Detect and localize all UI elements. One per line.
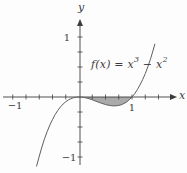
y-tick-label-neg1: −1 — [62, 153, 77, 163]
y-axis-arrowhead — [77, 19, 83, 26]
y-tick-label-1: 1 — [64, 33, 70, 43]
x-axis-arrowhead — [170, 94, 177, 100]
equation-mid: − x — [139, 58, 162, 71]
x-axis-label: x — [179, 91, 185, 101]
plot-canvas — [0, 0, 187, 173]
function-equation-label: f(x) = x3 − x2 — [91, 57, 168, 71]
x-tick-label-1: 1 — [129, 103, 135, 113]
x-tick-label-neg1: −1 — [8, 101, 23, 111]
equation-exponent-2: 2 — [162, 55, 167, 64]
plot-figure: y x 1 −1 1 −1 f(x) = x3 − x2 — [0, 0, 187, 173]
y-axis-label: y — [78, 3, 84, 13]
equation-prefix: f(x) = x — [91, 58, 134, 71]
equation-exponent-3: 3 — [134, 55, 139, 64]
